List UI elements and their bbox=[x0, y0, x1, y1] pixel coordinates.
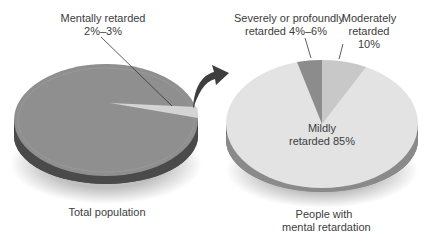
mild-label-line2: retarded 85% bbox=[282, 135, 362, 148]
left-pie bbox=[10, 37, 202, 204]
moderate-label-line2: retarded bbox=[336, 25, 402, 38]
mild-label-line1: Mildly bbox=[282, 122, 362, 135]
right-pie-caption-line1: People with bbox=[282, 208, 366, 221]
severe-label-line2: retarded 4%–6% bbox=[234, 25, 338, 38]
severe-leader-line bbox=[305, 38, 311, 58]
left-slice-label-line1: Mentally retarded bbox=[58, 12, 148, 25]
left-slice-label-line2: 2%–3% bbox=[58, 25, 148, 38]
mild-label: Mildly retarded 85% bbox=[282, 122, 362, 148]
right-pie-caption: People with mental retardation bbox=[282, 208, 366, 234]
left-pie-top bbox=[14, 64, 198, 176]
severe-label-line1: Severely or profoundly bbox=[234, 12, 338, 25]
severe-label: Severely or profoundly retarded 4%–6% bbox=[234, 12, 338, 38]
left-pie-caption: Total population bbox=[62, 206, 152, 219]
moderate-label: Moderately retarded 10% bbox=[336, 12, 402, 51]
left-slice-label: Mentally retarded 2%–3% bbox=[58, 12, 148, 38]
curved-arrow-icon bbox=[193, 65, 229, 109]
moderate-label-line1: Moderately bbox=[336, 12, 402, 25]
right-pie-caption-line2: mental retardation bbox=[282, 221, 366, 234]
moderate-label-line3: 10% bbox=[336, 38, 402, 51]
